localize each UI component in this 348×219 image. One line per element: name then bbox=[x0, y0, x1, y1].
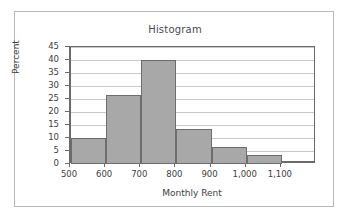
y-axis-tick-label: 20 bbox=[35, 107, 59, 116]
y-axis-tick-label: 5 bbox=[35, 146, 59, 155]
x-axis-label: Monthly Rent bbox=[69, 188, 315, 198]
y-axis-tick-label: 35 bbox=[35, 68, 59, 77]
histogram-bar bbox=[212, 147, 247, 164]
x-axis-tick-label: 1,000 bbox=[225, 170, 265, 179]
gridline bbox=[71, 60, 314, 61]
y-axis-tick-label: 10 bbox=[35, 133, 59, 142]
x-axis-tick-label: 500 bbox=[49, 170, 89, 179]
histogram-bar bbox=[106, 95, 141, 164]
gridline bbox=[71, 73, 314, 74]
x-axis-tick-mark bbox=[69, 163, 70, 167]
histogram-bar bbox=[176, 129, 211, 164]
chart-card: Histogram Percent 051015202530354045 500… bbox=[14, 11, 334, 207]
y-axis-tick-label: 30 bbox=[35, 81, 59, 90]
y-axis-tick-label: 40 bbox=[35, 55, 59, 64]
gridline bbox=[71, 47, 314, 48]
gridline bbox=[71, 86, 314, 87]
histogram-figure: Histogram Percent 051015202530354045 500… bbox=[0, 0, 348, 219]
x-axis-tick-label: 900 bbox=[190, 170, 230, 179]
histogram-bar bbox=[71, 138, 106, 164]
y-axis-tick-label: 15 bbox=[35, 120, 59, 129]
y-axis-label: Percent bbox=[11, 40, 21, 74]
histogram-bar bbox=[141, 60, 176, 164]
y-axis-tick-label: 0 bbox=[35, 159, 59, 168]
y-axis-tick-label: 45 bbox=[35, 42, 59, 51]
plot-area bbox=[69, 46, 315, 163]
histogram-bar bbox=[247, 155, 282, 164]
x-axis-tick-label: 600 bbox=[84, 170, 124, 179]
x-axis-tick-label: 800 bbox=[154, 170, 194, 179]
x-axis-tick-label: 1,100 bbox=[260, 170, 300, 179]
y-axis-tick-label: 25 bbox=[35, 94, 59, 103]
x-axis-tick-label: 700 bbox=[119, 170, 159, 179]
chart-title: Histogram bbox=[15, 24, 335, 35]
